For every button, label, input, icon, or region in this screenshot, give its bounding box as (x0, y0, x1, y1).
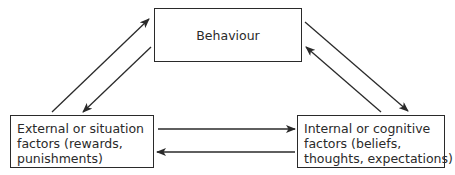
internal-label-line-1: Internal or cognitive (304, 121, 438, 136)
internal-label-line-3: thoughts, expectations) (304, 151, 438, 166)
arrow-internal-to-behaviour (306, 47, 381, 112)
external-factors-node: External or situation factors (rewards, … (10, 115, 154, 168)
external-label-line-3: punishments) (17, 151, 147, 166)
behaviour-node: Behaviour (154, 8, 302, 62)
external-label-line-1: External or situation (17, 121, 147, 136)
internal-label-line-2: factors (beliefs, (304, 136, 438, 151)
arrow-behaviour-to-external (83, 47, 151, 112)
arrow-behaviour-to-internal (305, 22, 408, 111)
internal-factors-node: Internal or cognitive factors (beliefs, … (297, 115, 445, 168)
behaviour-label: Behaviour (196, 28, 259, 43)
external-label-line-2: factors (rewards, (17, 136, 147, 151)
arrow-external-to-behaviour (52, 19, 149, 112)
